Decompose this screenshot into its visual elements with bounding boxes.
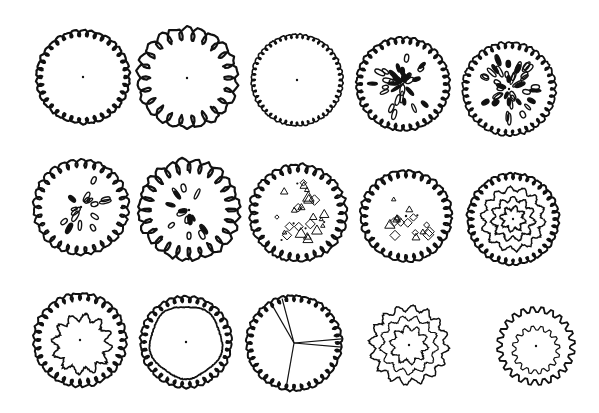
tree-symbol-3: Fine scalloped outline with center dot xyxy=(251,34,343,126)
tree-symbol-4: Scalloped outline with leaf marks xyxy=(356,37,450,131)
tree-symbol-7: Large loops with leaf marks xyxy=(138,158,241,261)
tree-symbol-11: Scalloped outline with inner wavy lines xyxy=(33,293,127,387)
tree-symbol-6: Scalloped outline with sparse leaves xyxy=(33,159,129,256)
tree-symbol-10: Concentric wavy rings xyxy=(467,173,560,266)
tree-symbol-9: Scalloped outline with sparse shapes xyxy=(360,170,452,262)
tree-symbols-sheet: Scalloped outline with center dotLarge l… xyxy=(0,0,599,413)
tree-symbol-14: Layered cloud outline xyxy=(368,305,449,385)
tree-symbol-5: Scalloped outline with dense leaf marks xyxy=(462,42,556,136)
tree-symbols-svg: Scalloped outline with center dotLarge l… xyxy=(0,0,599,413)
tree-symbol-2: Large loop outline with center dot xyxy=(136,26,238,129)
tree-symbol-8: Scalloped outline with geometric shapes xyxy=(249,163,347,261)
tree-symbol-12: Scalloped outline with inner ring xyxy=(140,296,232,389)
tree-symbol-1: Scalloped outline with center dot xyxy=(36,30,130,125)
tree-symbol-15: Crenellated outline with inner marks xyxy=(497,307,575,385)
tree-symbol-13: Scalloped outline with radial branch lin… xyxy=(246,295,343,391)
